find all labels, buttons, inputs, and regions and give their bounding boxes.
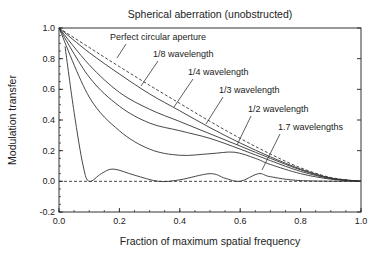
x-tick-label: 0.2 xyxy=(113,216,126,226)
x-tick-label: 1.0 xyxy=(355,216,368,226)
y-tick-label: 0.0 xyxy=(42,176,55,186)
leader-line xyxy=(117,44,126,58)
x-tick-label: 0.0 xyxy=(53,216,66,226)
y-tick-label: 0.8 xyxy=(42,54,55,64)
series-annotation: 1/2 wavelength xyxy=(248,104,309,114)
leader-line xyxy=(206,97,223,124)
mtf-chart: Spherical aberration (unobstructed) 1.00… xyxy=(0,0,386,258)
x-tick-label: 0.4 xyxy=(174,216,187,226)
x-axis: 0.00.20.40.60.81.0 xyxy=(53,208,368,226)
y-axis-label: Modulation transfer xyxy=(6,75,18,165)
x-axis-label: Fraction of maximum spatial frequency xyxy=(120,235,301,247)
annotations: Perfect circular aperture1/8 wavelength1… xyxy=(110,32,344,170)
series-annotation: 1/8 wavelength xyxy=(153,49,214,59)
x-tick-label: 0.6 xyxy=(234,216,247,226)
y-tick-label: 0.6 xyxy=(42,84,55,94)
series-annotation: 1.7 wavelengths xyxy=(278,122,344,132)
leader-line xyxy=(174,79,193,107)
chart-title: Spherical aberration (unobstructed) xyxy=(128,8,293,20)
series-annotation: Perfect circular aperture xyxy=(110,32,206,42)
series-annotation: 1/3 wavelength xyxy=(219,85,280,95)
y-tick-label: 0.2 xyxy=(42,146,55,156)
leader-line xyxy=(141,61,158,86)
y-tick-label: 1.0 xyxy=(42,23,55,33)
series-annotation: 1/4 wavelength xyxy=(188,67,249,77)
y-tick-label: 0.4 xyxy=(42,115,55,125)
x-tick-label: 0.8 xyxy=(294,216,307,226)
